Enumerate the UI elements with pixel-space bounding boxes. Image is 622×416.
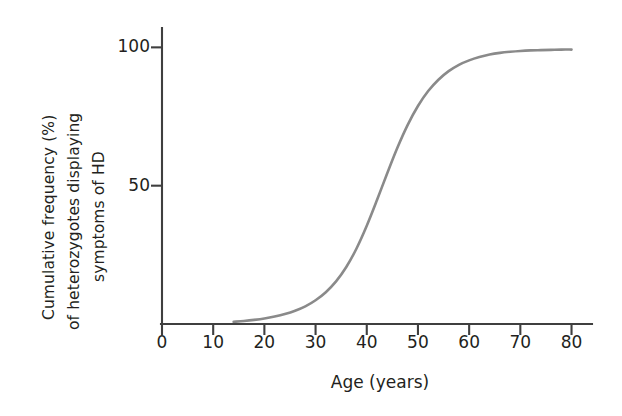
series-line-0	[234, 50, 572, 322]
axis-lines	[161, 28, 592, 324]
huntingtons-onset-chart: Cumulative frequency (%) of heterozygote…	[0, 0, 622, 416]
tick-marks	[151, 47, 572, 335]
plot-area	[0, 0, 622, 416]
data-series	[234, 50, 572, 322]
